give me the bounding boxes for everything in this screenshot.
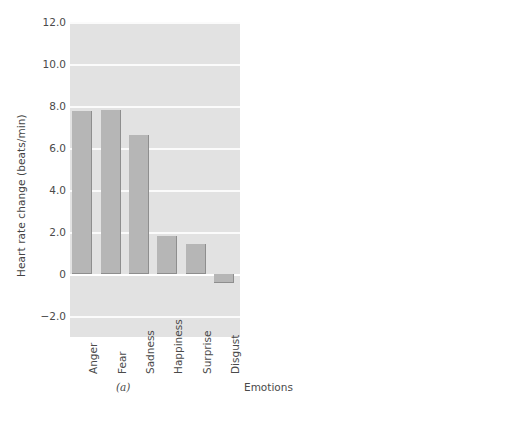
gridline xyxy=(70,190,240,192)
plot-area-a xyxy=(70,22,240,337)
gridline xyxy=(70,22,240,24)
x-axis-title: Emotions xyxy=(244,381,293,393)
x-tick-label-happiness: Happiness xyxy=(172,319,184,374)
bar-sadness xyxy=(129,135,149,274)
y-tick-label: −2.0 xyxy=(41,310,67,322)
y-tick-label: 12.0 xyxy=(43,16,66,28)
panel-a: Heart rate change (beats/min) 12.010.08.… xyxy=(0,0,252,424)
bar-surprise xyxy=(186,244,206,274)
x-tick-label-surprise: Surprise xyxy=(201,331,213,374)
y-axis-ticks-a: 12.010.08.06.04.02.00−2.0 xyxy=(24,0,66,424)
x-tick-label-fear: Fear xyxy=(116,351,128,374)
gridline xyxy=(70,106,240,108)
bar-fear xyxy=(101,110,121,274)
panel-letter-a: (a) xyxy=(116,381,130,393)
x-tick-label-anger: Anger xyxy=(87,343,99,374)
y-tick-label: 6.0 xyxy=(49,142,66,154)
figure: Heart rate change (beats/min) 12.010.08.… xyxy=(0,0,505,424)
gridline xyxy=(70,148,240,150)
bar-happiness xyxy=(157,236,177,274)
bar-anger xyxy=(72,111,92,274)
y-tick-label: 10.0 xyxy=(43,58,66,70)
y-tick-label: 8.0 xyxy=(49,100,66,112)
gridline xyxy=(70,64,240,66)
x-tick-label-disgust: Disgust xyxy=(229,335,241,374)
gridline xyxy=(70,232,240,234)
y-tick-label: 0 xyxy=(59,268,66,280)
bar-disgust xyxy=(214,274,234,283)
panel-b: Temperature change (degrees) 0.160.120.1… xyxy=(252,0,505,424)
y-tick-label: 4.0 xyxy=(49,184,66,196)
gridline xyxy=(70,316,240,318)
y-tick-label: 2.0 xyxy=(49,226,66,238)
x-tick-label-sadness: Sadness xyxy=(144,330,156,374)
